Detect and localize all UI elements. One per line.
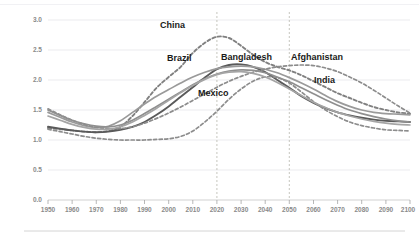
- x-tick-2100: 2100: [401, 206, 416, 213]
- series-label-mexico: Mexico: [198, 88, 229, 98]
- x-tick-1980: 1980: [113, 206, 128, 213]
- x-tick-2000: 2000: [161, 206, 176, 213]
- series-label-china: China: [160, 20, 186, 30]
- y-tick-2.5: 2.5: [33, 46, 42, 53]
- series-label-afghanistan: Afghanistan: [291, 52, 343, 62]
- x-tick-2020: 2020: [210, 206, 225, 213]
- x-tick-2090: 2090: [379, 206, 394, 213]
- line-chart: 3.0 2.5 2.0 1.5 1.0 0.5 0.0 1950 1960 19…: [0, 0, 419, 238]
- y-tick-2.0: 2.0: [33, 76, 42, 83]
- y-tick-0.5: 0.5: [33, 166, 42, 173]
- x-tick-2080: 2080: [354, 206, 369, 213]
- y-tick-3.0: 3.0: [33, 16, 42, 23]
- x-tick-1990: 1990: [137, 206, 152, 213]
- x-tick-2040: 2040: [258, 206, 273, 213]
- x-tick-1960: 1960: [65, 206, 80, 213]
- series-inline-labels: China Brazil Bangladesh Mexico Afghanist…: [160, 20, 343, 98]
- x-tick-2060: 2060: [306, 206, 321, 213]
- x-tick-1950: 1950: [41, 206, 56, 213]
- y-axis-tick-labels: 3.0 2.5 2.0 1.5 1.0 0.5 0.0: [33, 16, 42, 203]
- x-tick-2070: 2070: [330, 206, 345, 213]
- x-tick-2050: 2050: [282, 206, 297, 213]
- x-axis-tick-labels: 1950 1960 1970 1980 1990 2000 2010 2020 …: [41, 206, 416, 213]
- x-tick-2010: 2010: [186, 206, 201, 213]
- chart-container: 3.0 2.5 2.0 1.5 1.0 0.5 0.0 1950 1960 19…: [0, 0, 419, 238]
- vertical-marker-lines: [217, 12, 289, 200]
- series-label-india: India: [314, 75, 336, 85]
- x-tick-1970: 1970: [89, 206, 104, 213]
- series-label-brazil: Brazil: [167, 53, 192, 63]
- x-axis-tickmarks: [48, 200, 410, 204]
- horizontal-gridlines: [48, 20, 410, 170]
- y-tick-0.0: 0.0: [33, 196, 42, 203]
- x-tick-2030: 2030: [234, 206, 249, 213]
- y-tick-1.5: 1.5: [33, 106, 42, 113]
- series-label-bangladesh: Bangladesh: [221, 52, 272, 62]
- series-line-afghanistan: [48, 65, 410, 129]
- y-tick-1.0: 1.0: [33, 136, 42, 143]
